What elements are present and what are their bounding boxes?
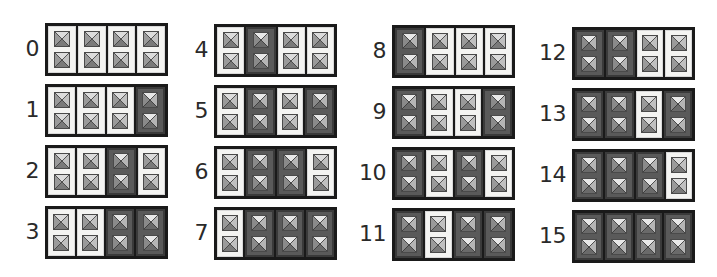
pyramid-stud-icon bbox=[642, 35, 658, 51]
bit-cell-off bbox=[48, 26, 76, 73]
pyramid-stud-icon bbox=[401, 176, 417, 192]
pyramid-stud-icon bbox=[581, 218, 597, 234]
bit-cell-off bbox=[456, 28, 483, 75]
pyramid-stud-icon bbox=[252, 154, 268, 170]
pyramid-stud-icon bbox=[54, 113, 70, 129]
pyramid-stud-icon bbox=[432, 33, 448, 49]
pyramid-stud-icon bbox=[490, 94, 506, 110]
pyramid-stud-icon bbox=[282, 114, 298, 130]
pyramid-stud-icon bbox=[432, 54, 448, 70]
bit-cell-off bbox=[77, 87, 104, 134]
bit-cell-off bbox=[307, 27, 334, 74]
bit-cell-on bbox=[136, 87, 165, 134]
bit-cell-off bbox=[425, 211, 451, 258]
bit-cell-on bbox=[605, 91, 633, 138]
bit-cell-on bbox=[306, 210, 334, 257]
pyramid-stud-icon bbox=[53, 214, 69, 230]
number-label: 14 bbox=[532, 162, 566, 188]
pyramid-stud-icon bbox=[142, 92, 158, 108]
bit-cell-on bbox=[605, 213, 633, 260]
bit-cell-off bbox=[48, 209, 75, 256]
pyramid-stud-icon bbox=[252, 93, 268, 109]
pyramid-stud-icon bbox=[401, 237, 417, 253]
bit-cell-on bbox=[395, 28, 424, 75]
pyramid-stud-icon bbox=[490, 237, 506, 253]
pyramid-stud-icon bbox=[313, 175, 329, 191]
pyramid-stud-icon bbox=[252, 175, 268, 191]
bit-cell-off bbox=[307, 149, 334, 196]
bit-cell-on bbox=[575, 152, 603, 199]
pyramid-stud-icon bbox=[640, 239, 656, 255]
pyramid-stud-icon bbox=[460, 115, 476, 131]
pyramid-stud-icon bbox=[461, 33, 477, 49]
pyramid-stud-icon bbox=[113, 31, 129, 47]
pyramid-stud-icon bbox=[253, 53, 269, 69]
pyramid-stud-icon bbox=[83, 113, 99, 129]
bit-cell-on bbox=[664, 91, 692, 138]
pyramid-stud-icon bbox=[581, 239, 597, 255]
pyramid-stud-icon bbox=[54, 92, 70, 108]
pyramid-stud-icon bbox=[252, 114, 268, 130]
pyramid-stud-icon bbox=[222, 114, 238, 130]
bit-cell-on bbox=[484, 211, 512, 258]
pyramid-stud-icon bbox=[611, 178, 627, 194]
pyramid-stud-icon bbox=[222, 175, 238, 191]
pyramid-stud-icon bbox=[611, 218, 627, 234]
bit-cell-on bbox=[246, 27, 275, 74]
bit-block bbox=[572, 210, 695, 263]
number-label: 12 bbox=[532, 40, 566, 66]
bit-cell-off bbox=[77, 148, 104, 195]
pyramid-stud-icon bbox=[282, 93, 298, 109]
bit-block bbox=[392, 147, 515, 200]
bit-cell-off bbox=[485, 28, 512, 75]
pyramid-stud-icon bbox=[491, 176, 507, 192]
pyramid-stud-icon bbox=[283, 32, 299, 48]
bit-block bbox=[572, 88, 695, 141]
bit-cell-off bbox=[426, 28, 453, 75]
pyramid-stud-icon bbox=[460, 237, 476, 253]
pyramid-stud-icon bbox=[112, 214, 128, 230]
pyramid-stud-icon bbox=[671, 157, 687, 173]
bit-cell-on bbox=[455, 150, 484, 197]
bit-cell-off bbox=[455, 89, 482, 136]
pyramid-stud-icon bbox=[142, 113, 158, 129]
bit-cell-on bbox=[246, 149, 275, 196]
pyramid-stud-icon bbox=[490, 33, 506, 49]
pyramid-stud-icon bbox=[612, 35, 628, 51]
bit-cell-on bbox=[636, 152, 664, 199]
bit-cell-on bbox=[483, 89, 512, 136]
pyramid-stud-icon bbox=[312, 236, 328, 252]
pyramid-stud-icon bbox=[581, 35, 597, 51]
bit-cell-off bbox=[217, 210, 243, 257]
bit-cell-off bbox=[426, 89, 453, 136]
number-label: 4 bbox=[174, 37, 208, 63]
pyramid-stud-icon bbox=[401, 216, 417, 232]
pyramid-stud-icon bbox=[670, 96, 686, 112]
pyramid-stud-icon bbox=[402, 33, 418, 49]
pyramid-stud-icon bbox=[143, 214, 159, 230]
pyramid-stud-icon bbox=[53, 235, 69, 251]
number-label: 6 bbox=[174, 159, 208, 185]
pyramid-stud-icon bbox=[283, 154, 299, 170]
pyramid-stud-icon bbox=[313, 154, 329, 170]
pyramid-stud-icon bbox=[83, 153, 99, 169]
pyramid-stud-icon bbox=[641, 117, 657, 133]
bit-cell-on bbox=[245, 210, 273, 257]
bit-block bbox=[572, 149, 695, 202]
pyramid-stud-icon bbox=[581, 117, 597, 133]
pyramid-stud-icon bbox=[671, 35, 687, 51]
pyramid-stud-icon bbox=[113, 52, 129, 68]
pyramid-stud-icon bbox=[283, 175, 299, 191]
pyramid-stud-icon bbox=[642, 157, 658, 173]
bit-cell-on bbox=[454, 211, 482, 258]
pyramid-stud-icon bbox=[611, 157, 627, 173]
pyramid-stud-icon bbox=[671, 178, 687, 194]
pyramid-stud-icon bbox=[83, 174, 99, 190]
bit-block bbox=[45, 206, 168, 259]
pyramid-stud-icon bbox=[283, 53, 299, 69]
bit-cell-on bbox=[136, 209, 165, 256]
bit-cell-off bbox=[637, 30, 664, 77]
bit-cell-on bbox=[107, 148, 136, 195]
pyramid-stud-icon bbox=[82, 214, 98, 230]
pyramid-stud-icon bbox=[112, 235, 128, 251]
